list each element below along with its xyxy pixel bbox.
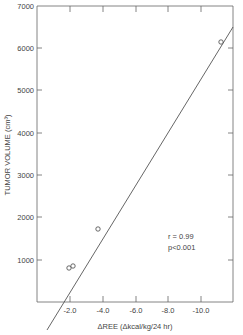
data-point	[219, 40, 223, 44]
data-points	[67, 40, 223, 270]
data-point	[71, 264, 75, 268]
chart: 7000 6000 5000 4000 3000 2000 1000 -2.0 …	[0, 0, 243, 335]
x-tick-label: -8.0	[162, 306, 175, 315]
x-axis-title: ΔREE (Δkcal/kg/24 hr)	[97, 322, 173, 331]
x-ticks	[70, 6, 201, 302]
regression-line	[47, 27, 233, 330]
y-tick-labels: 7000 6000 5000 4000 3000 2000 1000	[17, 2, 34, 265]
y-tick-label: 7000	[17, 2, 34, 11]
y-axis-title: TUMOR VOLUME (cm³)	[3, 114, 12, 195]
correlation-annotation: r = 0.99	[168, 232, 194, 241]
y-tick-label: 5000	[17, 86, 34, 95]
p-value-annotation: p<0.001	[168, 243, 195, 252]
y-ticks	[37, 48, 233, 260]
x-tick-labels: -2.0 -4.0 -6.0 -8.0 -10.0	[64, 306, 210, 315]
x-tick-label: -4.0	[97, 306, 110, 315]
plot-frame	[37, 6, 233, 302]
data-point	[96, 227, 100, 231]
y-tick-label: 4000	[17, 129, 34, 138]
x-tick-label: -10.0	[192, 306, 209, 315]
x-tick-label: -6.0	[130, 306, 143, 315]
x-tick-label: -2.0	[64, 306, 77, 315]
y-tick-label: 2000	[17, 213, 34, 222]
y-tick-label: 3000	[17, 171, 34, 180]
y-tick-label: 1000	[17, 256, 34, 265]
y-tick-label: 6000	[17, 44, 34, 53]
